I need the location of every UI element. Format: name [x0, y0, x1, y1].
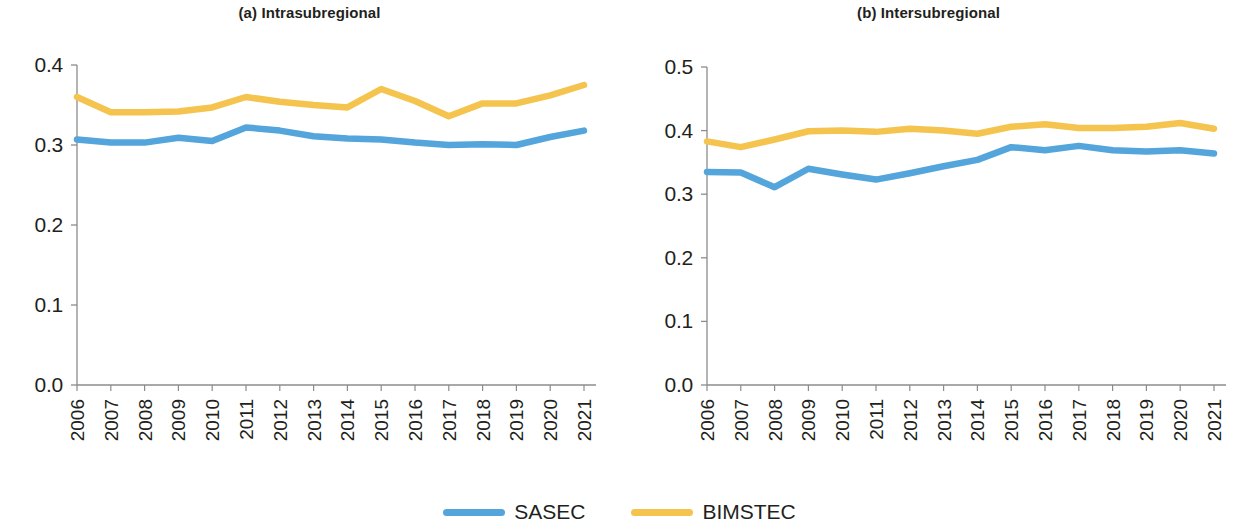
legend-label-bimstec: BIMSTEC — [702, 500, 795, 524]
panel-a-plot-area: 0.00.10.20.30.42006200720082009201020112… — [0, 0, 619, 492]
legend-item-sasec: SASEC — [443, 500, 585, 524]
figure-root: (a) Intrasubregional 0.00.10.20.30.42006… — [0, 0, 1239, 532]
plot-a-svg — [0, 0, 619, 492]
series-line-bimstec — [707, 123, 1214, 147]
panels-container: (a) Intrasubregional 0.00.10.20.30.42006… — [0, 0, 1239, 492]
legend-swatch-sasec — [443, 509, 505, 516]
panel-b-plot-area: 0.00.10.20.30.40.52006200720082009201020… — [619, 0, 1238, 492]
legend-swatch-bimstec — [631, 509, 693, 516]
series-line-sasec — [77, 127, 584, 145]
chart-legend: SASECBIMSTEC — [0, 492, 1239, 532]
legend-item-bimstec: BIMSTEC — [631, 500, 795, 524]
panel-a-intrasubregional: (a) Intrasubregional 0.00.10.20.30.42006… — [0, 0, 619, 492]
plot-b-svg — [619, 0, 1238, 492]
series-line-bimstec — [77, 85, 584, 116]
series-line-sasec — [707, 146, 1214, 187]
legend-label-sasec: SASEC — [514, 500, 585, 524]
panel-b-intersubregional: (b) Intersubregional 0.00.10.20.30.40.52… — [619, 0, 1238, 492]
